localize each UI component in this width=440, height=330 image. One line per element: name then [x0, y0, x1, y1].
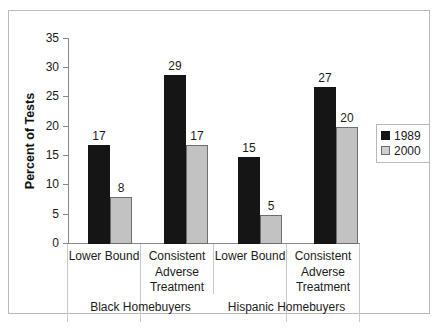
category-line: Lower Bound — [68, 249, 140, 265]
category-label-lower-bound-hispanic: Lower Bound — [214, 244, 286, 292]
bar-2000-consistent-adverse-black[interactable] — [186, 145, 208, 244]
category-line: Consistent — [287, 249, 359, 265]
bar-2000-consistent-adverse-hispanic[interactable] — [336, 127, 358, 244]
bar-value-label-2000-lower-bound-black: 8 — [107, 182, 135, 194]
category-label-consistent-adverse-hispanic: Consistent Adverse Treatment — [287, 244, 359, 292]
category-line: Adverse — [287, 265, 359, 281]
plot-area: 17 8 29 17 15 5 27 20 — [68, 38, 358, 244]
chart-legend: 1989 2000 — [376, 124, 430, 163]
bar-value-label-2000-consistent-adverse-black: 17 — [183, 130, 211, 142]
legend-swatch-icon-1989 — [381, 131, 390, 140]
category-label-lower-bound-black: Lower Bound — [68, 244, 140, 292]
group-label-hispanic-homebuyers: Hispanic Homebuyers — [214, 294, 359, 321]
legend-label-2000: 2000 — [394, 145, 421, 157]
bar-1989-lower-bound-black[interactable] — [88, 145, 110, 244]
legend-entry-1989[interactable]: 1989 — [381, 128, 425, 143]
category-label-consistent-adverse-black: Consistent Adverse Treatment — [141, 244, 213, 292]
y-axis-label-30: 30 — [29, 61, 59, 73]
legend-label-1989: 1989 — [394, 130, 421, 142]
bar-value-label-1989-lower-bound-black: 17 — [85, 130, 113, 142]
category-axis-table: Lower Bound Consistent Adverse Treatment… — [67, 244, 360, 322]
legend-swatch-icon-2000 — [381, 146, 390, 155]
legend-entry-2000[interactable]: 2000 — [381, 143, 425, 158]
chart-frame: 35 30 25 20 15 10 5 0 Percent of Tests 1… — [8, 10, 430, 314]
bar-value-label-2000-consistent-adverse-hispanic: 20 — [333, 112, 361, 124]
y-axis-title: Percent of Tests — [23, 81, 37, 201]
category-line: Lower Bound — [214, 249, 286, 265]
chart-figure: 35 30 25 20 15 10 5 0 Percent of Tests 1… — [0, 0, 440, 330]
group-label-black-homebuyers: Black Homebuyers — [68, 294, 213, 321]
bar-value-label-1989-lower-bound-hispanic: 15 — [235, 142, 263, 154]
bar-1989-consistent-adverse-black[interactable] — [164, 75, 186, 244]
category-line: Adverse — [141, 265, 213, 281]
bar-value-label-1989-consistent-adverse-black: 29 — [161, 60, 189, 72]
bar-2000-lower-bound-black[interactable] — [110, 197, 132, 244]
bar-value-label-2000-lower-bound-hispanic: 5 — [257, 200, 285, 212]
bar-value-label-1989-consistent-adverse-hispanic: 27 — [311, 72, 339, 84]
bar-2000-lower-bound-hispanic[interactable] — [260, 215, 282, 244]
bar-1989-consistent-adverse-hispanic[interactable] — [314, 87, 336, 244]
category-divider-right — [359, 244, 360, 322]
y-axis-label-35: 35 — [29, 32, 59, 44]
category-line: Consistent — [141, 249, 213, 265]
y-axis-label-5: 5 — [29, 208, 59, 220]
y-axis-label-0: 0 — [29, 237, 59, 249]
